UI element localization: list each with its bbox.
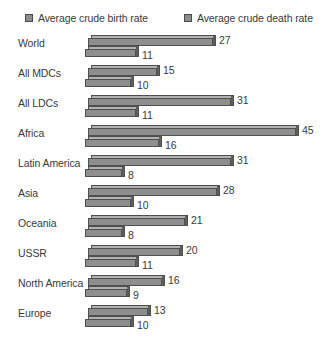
value-label-death-rate: 10 bbox=[137, 319, 148, 331]
bar-front-face bbox=[88, 278, 162, 286]
value-label-birth-rate: 31 bbox=[237, 94, 248, 106]
category-label-oceania: Oceania bbox=[0, 217, 82, 229]
bar-birth-rate bbox=[88, 308, 148, 316]
bar-end-cap bbox=[217, 185, 220, 196]
category-label-all-mdcs: All MDCs bbox=[0, 67, 82, 79]
bar-death-rate bbox=[85, 169, 122, 177]
bar-front-face bbox=[85, 319, 131, 327]
category-label-north-america: North America bbox=[0, 277, 82, 289]
category-label-europe: Europe bbox=[0, 307, 82, 319]
bar-end-cap bbox=[122, 226, 125, 237]
value-label-birth-rate: 16 bbox=[168, 274, 179, 286]
chart-legend: Average crude birth rate Average crude d… bbox=[0, 10, 331, 30]
bar-front-face bbox=[85, 49, 136, 57]
bar-front-face bbox=[88, 188, 217, 196]
category-label-africa: Africa bbox=[0, 127, 82, 139]
bar-birth-rate bbox=[88, 98, 231, 106]
chart-row: Oceania218 bbox=[0, 213, 331, 243]
value-label-death-rate: 16 bbox=[165, 139, 176, 151]
bar-front-face bbox=[85, 259, 136, 267]
bar-death-rate bbox=[85, 139, 159, 147]
value-label-death-rate: 9 bbox=[133, 289, 139, 301]
chart-row: USSR2011 bbox=[0, 243, 331, 273]
chart-row: Europe1310 bbox=[0, 303, 331, 333]
bar-end-cap bbox=[296, 125, 299, 136]
chart-row: All LDCs3111 bbox=[0, 93, 331, 123]
value-label-death-rate: 11 bbox=[142, 49, 153, 61]
category-label-asia: Asia bbox=[0, 187, 82, 199]
bar-end-cap bbox=[159, 136, 162, 147]
bar-front-face bbox=[88, 248, 180, 256]
birth-rate-swatch-icon bbox=[25, 14, 33, 22]
category-label-world: World bbox=[0, 37, 82, 49]
bar-front-face bbox=[85, 289, 127, 297]
bar-front-face bbox=[85, 109, 136, 117]
value-label-birth-rate: 15 bbox=[163, 64, 174, 76]
bar-birth-rate bbox=[88, 248, 180, 256]
bar-death-rate bbox=[85, 259, 136, 267]
bar-end-cap bbox=[131, 316, 134, 327]
value-label-birth-rate: 45 bbox=[302, 124, 313, 136]
bar-front-face bbox=[88, 158, 231, 166]
value-label-birth-rate: 31 bbox=[237, 154, 248, 166]
value-label-birth-rate: 13 bbox=[154, 304, 165, 316]
bar-end-cap bbox=[131, 76, 134, 87]
bar-end-cap bbox=[185, 215, 188, 226]
bar-front-face bbox=[88, 38, 213, 46]
bar-birth-rate bbox=[88, 278, 162, 286]
bar-front-face bbox=[85, 139, 159, 147]
bar-birth-rate bbox=[88, 38, 213, 46]
bar-front-face bbox=[85, 199, 131, 207]
bar-death-rate bbox=[85, 289, 127, 297]
bar-birth-rate bbox=[88, 128, 296, 136]
bar-birth-rate bbox=[88, 218, 185, 226]
legend-entry-death-rate: Average crude death rate bbox=[184, 12, 313, 24]
bar-death-rate bbox=[85, 199, 131, 207]
legend-label-birth-rate: Average crude birth rate bbox=[38, 12, 148, 24]
category-label-ussr: USSR bbox=[0, 247, 82, 259]
bar-front-face bbox=[85, 79, 131, 87]
bar-end-cap bbox=[148, 305, 151, 316]
bar-death-rate bbox=[85, 49, 136, 57]
bar-birth-rate bbox=[88, 188, 217, 196]
crude-birth-death-rate-chart: Average crude birth rate Average crude d… bbox=[0, 0, 331, 355]
chart-row: World2711 bbox=[0, 33, 331, 63]
value-label-birth-rate: 28 bbox=[223, 184, 234, 196]
value-label-birth-rate: 27 bbox=[219, 34, 230, 46]
bar-end-cap bbox=[127, 286, 130, 297]
bar-end-cap bbox=[231, 95, 234, 106]
death-rate-swatch-icon bbox=[184, 14, 192, 22]
chart-row: Latin America318 bbox=[0, 153, 331, 183]
bar-end-cap bbox=[136, 106, 139, 117]
bar-death-rate bbox=[85, 109, 136, 117]
bar-front-face bbox=[88, 68, 157, 76]
legend-entry-birth-rate: Average crude birth rate bbox=[25, 12, 148, 24]
bar-end-cap bbox=[136, 46, 139, 57]
bar-birth-rate bbox=[88, 68, 157, 76]
bar-end-cap bbox=[213, 35, 216, 46]
chart-row: Africa4516 bbox=[0, 123, 331, 153]
bar-death-rate bbox=[85, 79, 131, 87]
bar-end-cap bbox=[157, 65, 160, 76]
bar-end-cap bbox=[180, 245, 183, 256]
legend-label-death-rate: Average crude death rate bbox=[197, 12, 313, 24]
value-label-death-rate: 8 bbox=[128, 229, 134, 241]
value-label-death-rate: 11 bbox=[142, 259, 153, 271]
bar-front-face bbox=[88, 98, 231, 106]
bar-end-cap bbox=[136, 256, 139, 267]
bar-front-face bbox=[88, 128, 296, 136]
bar-end-cap bbox=[231, 155, 234, 166]
bar-front-face bbox=[88, 218, 185, 226]
bar-front-face bbox=[85, 169, 122, 177]
bar-birth-rate bbox=[88, 158, 231, 166]
category-label-latin-america: Latin America bbox=[0, 157, 82, 169]
category-label-all-ldcs: All LDCs bbox=[0, 97, 82, 109]
chart-row: North America169 bbox=[0, 273, 331, 303]
value-label-death-rate: 10 bbox=[137, 199, 148, 211]
bar-front-face bbox=[88, 308, 148, 316]
bar-end-cap bbox=[131, 196, 134, 207]
value-label-death-rate: 11 bbox=[142, 109, 153, 121]
bar-death-rate bbox=[85, 229, 122, 237]
chart-row: Asia2810 bbox=[0, 183, 331, 213]
bar-end-cap bbox=[122, 166, 125, 177]
